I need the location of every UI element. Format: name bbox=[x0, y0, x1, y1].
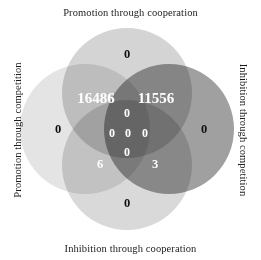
venn-diagram-figure: 000016486115566300000 Promotion through … bbox=[0, 0, 261, 260]
venn-label-promotion-through-cooperation: Promotion through cooperation bbox=[0, 7, 261, 19]
venn-label-promotion-through-competition: Promotion through competition bbox=[12, 50, 24, 210]
venn-label-inhibition-through-competition: Inhibition through competition bbox=[237, 50, 249, 210]
venn-circles-area bbox=[0, 0, 261, 260]
venn-circle-promotion-competition bbox=[20, 64, 150, 194]
venn-label-inhibition-through-cooperation: Inhibition through cooperation bbox=[0, 243, 261, 255]
